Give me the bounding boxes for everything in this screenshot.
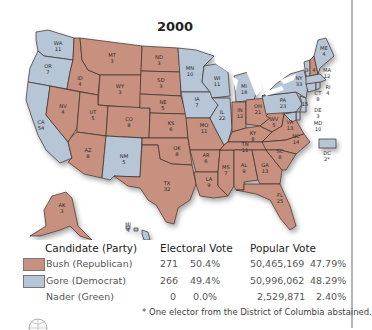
legend-pv-pct-nader: 2.40%	[316, 291, 346, 302]
svg-text:DE3: DE3	[314, 107, 321, 119]
legend-candidate-bush: Bush (Republican)	[46, 258, 132, 269]
legend-ev-pct-bush: 50.4%	[190, 258, 220, 269]
swatch-republican	[23, 258, 45, 271]
svg-text:WI11: WI11	[214, 75, 221, 87]
svg-text:GA13: GA13	[261, 162, 269, 174]
svg-text:OH21: OH21	[254, 103, 262, 115]
legend-header-candidate: Candidate (Party)	[45, 242, 137, 254]
svg-text:VA13: VA13	[287, 119, 294, 131]
svg-text:NC14: NC14	[292, 133, 300, 145]
state-FL	[236, 184, 296, 230]
svg-text:TX32: TX32	[163, 180, 171, 192]
globe-icon	[28, 318, 48, 330]
svg-text:DC2*: DC2*	[323, 150, 331, 162]
legend-header-electoral: Electoral Vote	[160, 242, 233, 254]
legend-ev-nader: 0	[170, 291, 176, 302]
svg-text:MI18: MI18	[241, 83, 248, 95]
svg-text:HI4: HI4	[125, 221, 131, 233]
svg-text:MO11: MO11	[200, 122, 209, 134]
legend-header-popular: Popular Vote	[250, 242, 316, 254]
legend-ev-bush: 271	[160, 258, 178, 269]
state-DE	[296, 112, 300, 120]
state-AK	[30, 192, 92, 240]
svg-text:PA23: PA23	[280, 97, 287, 109]
legend-pv-gore: 50,996,062	[250, 275, 304, 286]
state-RI	[316, 82, 320, 90]
us-electoral-map: WA11 OR7 CA54 ID4 NV4 MT3 WY3 UT5 AZ8 CO…	[0, 0, 350, 240]
legend-ev-gore: 266	[160, 275, 178, 286]
legend-candidate-nader: Nader (Green)	[46, 291, 114, 302]
svg-text:MA12: MA12	[323, 67, 331, 79]
svg-text:TN11: TN11	[240, 141, 248, 153]
svg-text:IN12: IN12	[237, 107, 244, 119]
legend-pv-pct-gore: 48.29%	[310, 275, 346, 286]
footnote: * One elector from the District of Colum…	[142, 307, 372, 317]
legend-pv-nader: 2,529,871	[257, 291, 305, 302]
swatch-democrat	[23, 275, 45, 288]
svg-text:CA54: CA54	[37, 119, 45, 131]
svg-text:3: 3	[305, 67, 308, 73]
legend-pv-bush: 50,465,169	[250, 258, 304, 269]
svg-text:NY33: NY33	[295, 75, 303, 87]
svg-text:MD10: MD10	[314, 120, 322, 132]
legend-ev-pct-nader: 0.0%	[193, 291, 217, 302]
svg-text:CT8: CT8	[315, 90, 323, 102]
legend-ev-pct-gore: 49.4%	[190, 275, 220, 286]
legend-candidate-gore: Gore (Democrat)	[46, 275, 126, 286]
svg-text:FL25: FL25	[277, 192, 284, 204]
page-edge-rule	[351, 0, 353, 328]
legend-pv-pct-bush: 47.79%	[310, 258, 346, 269]
svg-text:15: 15	[302, 101, 309, 107]
state-DC	[319, 139, 336, 148]
svg-text:RI4: RI4	[325, 84, 331, 96]
svg-text:MN10: MN10	[186, 65, 194, 77]
